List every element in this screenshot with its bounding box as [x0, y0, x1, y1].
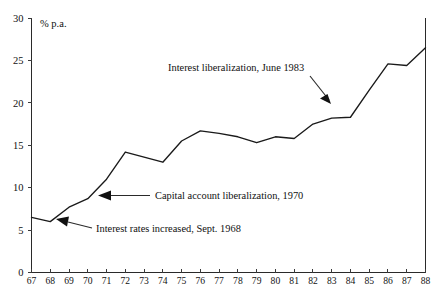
x-tick-label-85: 85: [364, 275, 374, 286]
x-tick-label-88: 88: [421, 275, 431, 286]
x-tick-label-80: 80: [271, 275, 281, 286]
x-tick-label-77: 77: [214, 275, 224, 286]
x-tick-label-86: 86: [383, 275, 393, 286]
x-tick-label-78: 78: [233, 275, 243, 286]
y-axis-unit-label: % p.a.: [40, 18, 67, 29]
y-tick-label-15: 15: [13, 140, 24, 151]
y-tick-label-20: 20: [13, 98, 24, 109]
x-tick-label-75: 75: [177, 275, 187, 286]
line-chart: 051015202530 676869707172737475767778798…: [0, 0, 438, 301]
x-tick-label-70: 70: [83, 275, 93, 286]
x-tick-label-84: 84: [346, 275, 356, 286]
x-tick-label-81: 81: [289, 275, 299, 286]
x-tick-label-87: 87: [402, 275, 412, 286]
x-tick-label-71: 71: [102, 275, 112, 286]
annotation-label-interest-rates-increased-1968: Interest rates increased, Sept. 1968: [96, 223, 241, 234]
chart-container: 051015202530 676869707172737475767778798…: [0, 0, 438, 301]
x-tick-label-83: 83: [327, 275, 337, 286]
x-tick-label-79: 79: [252, 275, 262, 286]
x-tick-label-82: 82: [308, 275, 318, 286]
x-tick-label-73: 73: [139, 275, 149, 286]
y-tick-label-5: 5: [18, 225, 23, 236]
x-tick-label-72: 72: [121, 275, 131, 286]
chart-background: [0, 0, 438, 301]
annotation-label-capital-account-liberalization-1970: Capital account liberalization, 1970: [155, 190, 303, 201]
x-tick-label-69: 69: [64, 275, 74, 286]
y-tick-label-0: 0: [18, 267, 23, 278]
y-tick-label-30: 30: [13, 13, 24, 24]
x-tick-label-68: 68: [45, 275, 55, 286]
x-tick-label-67: 67: [27, 275, 37, 286]
annotation-label-interest-liberalization-1983: Interest liberalization, June 1983: [168, 62, 304, 73]
y-tick-label-25: 25: [13, 55, 24, 66]
x-tick-label-74: 74: [158, 275, 168, 286]
x-tick-label-76: 76: [196, 275, 206, 286]
y-tick-label-10: 10: [13, 182, 24, 193]
